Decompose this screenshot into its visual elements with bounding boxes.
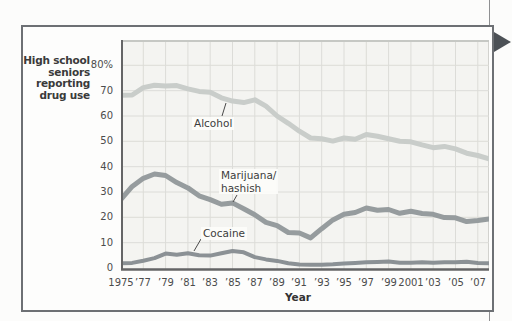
y-tick-label: 60 [70,110,113,122]
page-column-rule-top [489,0,490,26]
drug-use-line-chart [121,40,489,271]
figure-pointer-arrow-icon [494,32,511,52]
y-tick-label: 70 [70,85,113,97]
textbook-figure-page: High school seniors reporting drug use 8… [0,0,512,321]
y-tick-label: 10 [70,237,113,249]
alcohol-label: Alcohol [192,117,234,130]
y-tick-label: 20 [70,211,113,223]
marijuana-label: Marijuana/hashish [219,169,278,194]
y-tick-label: 0 [70,262,113,274]
cocaine-label: Cocaine [201,227,247,240]
y-tick-label: 80% [70,59,113,71]
y-tick-label: 30 [70,186,113,198]
x-axis-label: Year [272,291,324,303]
y-tick-label: 50 [70,135,113,147]
x-tick-label: ’07 [459,277,497,289]
y-tick-label: 40 [70,161,113,173]
page-column-rule-bottom [489,311,490,321]
